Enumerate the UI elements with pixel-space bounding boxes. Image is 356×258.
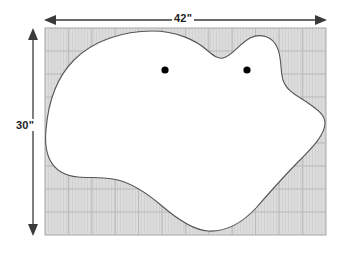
height-dimension-label: 30" [14,119,36,131]
width-dimension-label: 42" [172,12,194,24]
figure-container: 42" 30" [0,0,356,258]
height-dimension-arrow [28,28,38,236]
point-right-dot [243,66,250,73]
width-arrowhead-left [44,15,56,25]
height-arrowhead-bottom [28,224,38,236]
figure-svg [0,0,356,258]
point-left-dot [161,66,168,73]
width-arrowhead-right [315,15,327,25]
height-arrowhead-top [28,28,38,40]
